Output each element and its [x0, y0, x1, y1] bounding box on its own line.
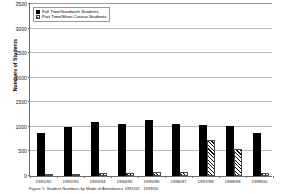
plot-area: 0500100015002000250030003500 1991/921992… — [29, 4, 272, 177]
bar-part-time — [234, 149, 242, 176]
bar-full-time — [226, 126, 234, 176]
legend-label-part-time: Part Time/Short Course Students — [42, 15, 106, 19]
bar-full-time — [118, 124, 126, 176]
bar-group — [145, 4, 161, 176]
x-tick-mark — [165, 176, 166, 178]
bar-part-time — [72, 174, 80, 176]
bar-full-time — [91, 122, 99, 176]
x-tick-mark — [84, 176, 85, 178]
bar-group — [199, 4, 215, 176]
bar-chart-figure: Numbers of Students 05001000150020002500… — [0, 0, 281, 194]
y-axis-title: Numbers of Students — [12, 20, 18, 110]
y-tick-label: 3000 — [15, 26, 27, 32]
x-tick-label: 1991/92 — [36, 179, 52, 184]
legend-swatch-full-time-icon — [36, 10, 40, 14]
x-tick-label: 1994/95 — [117, 179, 133, 184]
x-tick-mark — [246, 176, 247, 178]
bar-part-time — [180, 172, 188, 176]
bar-group — [37, 4, 53, 176]
legend-item-part-time: Part Time/Short Course Students — [36, 15, 106, 19]
bar-group — [91, 4, 107, 176]
y-tick-label: 1500 — [15, 99, 27, 105]
x-tick-label: 1997/98 — [198, 179, 214, 184]
x-tick-label: 1993/94 — [90, 179, 106, 184]
bar-group — [172, 4, 188, 176]
bars-layer — [30, 4, 272, 176]
x-tick-label: 1999/00 — [252, 179, 268, 184]
bar-full-time — [37, 133, 45, 176]
x-tick-mark — [57, 176, 58, 178]
bar-full-time — [145, 120, 153, 176]
y-tick-label: 1000 — [15, 124, 27, 130]
figure-caption: Figure 1: Student Numbers by Mode of Att… — [29, 186, 158, 191]
x-tick-mark — [111, 176, 112, 178]
bar-group — [253, 4, 269, 176]
y-tick-label: 3500 — [15, 1, 27, 7]
y-tick-label: 2000 — [15, 75, 27, 81]
x-tick-mark — [138, 176, 139, 178]
bar-full-time — [253, 133, 261, 176]
bar-part-time — [45, 174, 53, 176]
x-tick-label: 1995/96 — [144, 179, 160, 184]
legend-swatch-part-time-icon — [36, 15, 40, 19]
chart-legend: Full Time/Sandwich Students Part Time/Sh… — [33, 7, 110, 22]
y-tick-label: 0 — [24, 173, 27, 179]
bar-full-time — [172, 124, 180, 176]
x-tick-mark — [273, 176, 274, 178]
bar-group — [64, 4, 80, 176]
x-tick-label: 1996/97 — [171, 179, 187, 184]
bar-full-time — [199, 125, 207, 176]
bar-group — [118, 4, 134, 176]
x-tick-mark — [219, 176, 220, 178]
bar-part-time — [99, 173, 107, 176]
y-tick-label: 500 — [18, 148, 27, 154]
bar-part-time — [261, 173, 269, 176]
x-tick-mark — [192, 176, 193, 178]
bar-part-time — [153, 172, 161, 176]
y-tick-label: 2500 — [15, 50, 27, 56]
bar-full-time — [64, 127, 72, 176]
bar-part-time — [126, 173, 134, 176]
x-tick-label: 1992/93 — [63, 179, 79, 184]
bar-group — [226, 4, 242, 176]
x-tick-label: 1998/99 — [225, 179, 241, 184]
x-tick-mark — [30, 176, 31, 178]
bar-part-time — [207, 140, 215, 176]
